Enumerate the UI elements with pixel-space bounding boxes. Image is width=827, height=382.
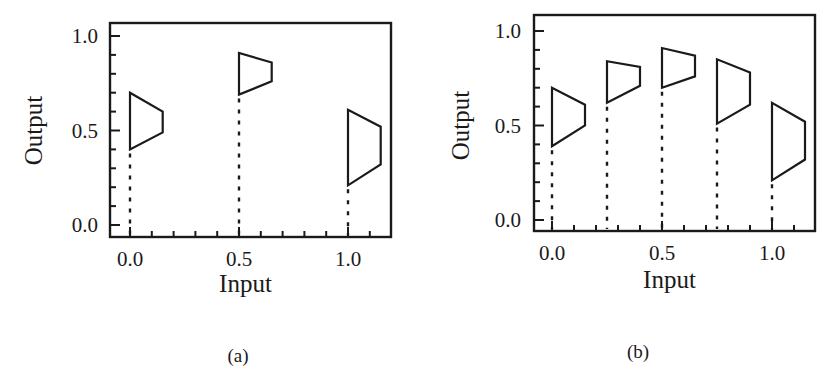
x-tick-label: 0.0	[117, 247, 143, 271]
trapezoid-marker	[607, 61, 640, 103]
y-axis-title: Output	[20, 96, 47, 166]
trapezoid-marker	[717, 59, 750, 123]
y-axis-title: Output	[447, 91, 474, 161]
y-tick-label: 1.0	[495, 19, 521, 43]
x-tick-label: 1.0	[759, 241, 785, 265]
x-axis-title: Input	[219, 270, 272, 297]
caption-b: (b)	[627, 341, 649, 363]
trapezoid-marker	[552, 88, 585, 147]
trapezoid-marker	[239, 53, 272, 95]
x-tick-label: 0.5	[649, 241, 675, 265]
x-tick-label: 1.0	[335, 247, 361, 271]
caption-a: (a)	[227, 345, 248, 367]
y-tick-label: 0.5	[495, 114, 521, 138]
trapezoid-marker	[348, 110, 381, 186]
trapezoid-marker	[130, 93, 163, 150]
y-tick-label: 0.5	[72, 119, 98, 143]
x-tick-label: 0.5	[226, 247, 252, 271]
trapezoid-marker	[772, 103, 805, 180]
panel-a: 0.00.51.00.00.51.0InputOutput	[20, 23, 391, 297]
figure: 0.00.51.00.00.51.0InputOutput 0.00.51.00…	[0, 0, 827, 382]
panel-b: 0.00.51.00.00.51.0InputOutput	[447, 15, 815, 293]
trapezoid-marker	[662, 48, 695, 88]
x-axis-title: Input	[643, 266, 696, 293]
y-tick-label: 0.0	[495, 208, 521, 232]
y-tick-label: 0.0	[72, 213, 98, 237]
y-tick-label: 1.0	[72, 24, 98, 48]
x-tick-label: 0.0	[539, 241, 565, 265]
